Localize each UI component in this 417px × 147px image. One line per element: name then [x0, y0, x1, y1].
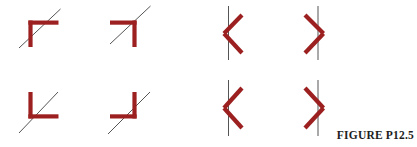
figure-drawing-canvas — [0, 0, 417, 147]
figure-caption: FIGURE P12.5 — [337, 130, 414, 142]
figure-p12-5: FIGURE P12.5 — [0, 0, 417, 147]
figure-background — [0, 0, 417, 147]
